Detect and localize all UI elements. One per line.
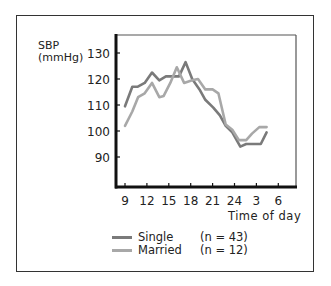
legend-item-married: Married (n = 12) [112, 244, 248, 257]
y-tick-label: 120 [87, 73, 110, 87]
y-tick-label: 110 [87, 99, 110, 113]
x-tick-label: 18 [183, 194, 198, 208]
legend: Single (n = 43) Married (n = 12) [112, 231, 248, 257]
series-line-single [125, 62, 267, 147]
y-tick-label: 130 [87, 47, 110, 61]
x-tick-label: 24 [227, 194, 242, 208]
legend-swatch-single [112, 236, 132, 239]
x-tick-label: 9 [121, 194, 129, 208]
x-tick-label: 3 [253, 194, 261, 208]
x-tick-label: 15 [161, 194, 176, 208]
legend-label-married: Married [138, 244, 200, 257]
x-tick-label: 21 [205, 194, 220, 208]
y-tick-label: 100 [87, 125, 110, 139]
y-tick-label: 90 [95, 151, 110, 165]
x-axis-label: Time of day [228, 209, 301, 223]
x-tick-label: 6 [274, 194, 282, 208]
x-tick-label: 12 [139, 194, 154, 208]
legend-n-married: (n = 12) [200, 244, 248, 257]
series-line-married [125, 67, 267, 140]
legend-swatch-married [112, 249, 132, 252]
